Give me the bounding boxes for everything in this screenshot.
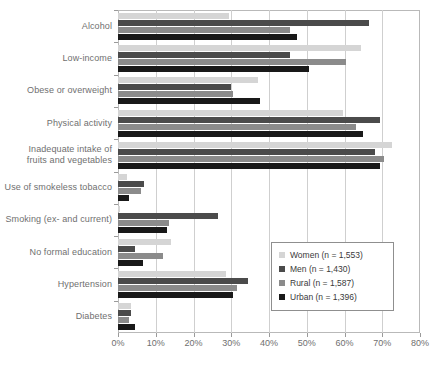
bar-group — [118, 107, 420, 139]
bar — [118, 260, 143, 266]
x-axis-labels: 0%10%20%30%40%50%60%70%80% — [0, 337, 442, 353]
bar-gap — [118, 180, 420, 181]
legend-swatch-icon — [279, 294, 285, 300]
x-axis-label: 10% — [139, 337, 173, 349]
x-axis-label: 40% — [252, 337, 286, 349]
y-axis-tick — [114, 268, 118, 269]
y-axis-tick — [114, 139, 118, 140]
y-axis-label: Physical activity — [0, 118, 112, 129]
y-axis-tick — [114, 301, 118, 302]
y-axis-label: Alcohol — [0, 21, 112, 32]
y-axis-label: Obese or overweight — [0, 85, 112, 96]
bar-gap — [118, 187, 420, 188]
legend-label: Men (n = 1,430) — [290, 264, 350, 274]
bar — [118, 292, 233, 298]
bar — [118, 163, 380, 169]
y-axis-tick — [114, 172, 118, 173]
legend-swatch-icon — [279, 252, 285, 258]
legend-label: Rural (n = 1,587) — [290, 278, 354, 288]
bar-group — [118, 42, 420, 74]
bar — [118, 131, 363, 137]
bar-group — [118, 204, 420, 236]
y-axis-tick — [114, 204, 118, 205]
legend-item: Urban (n = 1,396) — [279, 290, 386, 304]
y-axis-label: Inadequate intake offruits and vegetable… — [0, 144, 112, 166]
bar-gap — [118, 316, 420, 317]
legend-label: Urban (n = 1,396) — [290, 292, 357, 302]
x-axis-label: 50% — [290, 337, 324, 349]
y-axis-label: Use of smokeless tobacco — [0, 182, 112, 193]
bar — [118, 66, 309, 72]
x-axis-label: 0% — [101, 337, 135, 349]
bar-group — [118, 10, 420, 42]
x-axis-label: 20% — [177, 337, 211, 349]
bar — [118, 324, 135, 330]
y-axis-labels: AlcoholLow-incomeObese or overweightPhys… — [0, 10, 112, 333]
y-axis-tick — [114, 236, 118, 237]
legend-item: Men (n = 1,430) — [279, 262, 386, 276]
bar-gap — [118, 323, 420, 324]
legend-item: Women (n = 1,553) — [279, 248, 386, 262]
legend-item: Rural (n = 1,587) — [279, 276, 386, 290]
bar-chart: AlcoholLow-incomeObese or overweightPhys… — [0, 0, 442, 369]
x-axis-label: 30% — [214, 337, 248, 349]
bar — [118, 227, 167, 233]
y-axis-tick — [114, 10, 118, 11]
x-axis-label: 60% — [328, 337, 362, 349]
y-axis-label: Low-income — [0, 53, 112, 64]
bar-gap — [118, 194, 420, 195]
bar-group — [118, 172, 420, 204]
y-axis-tick — [114, 107, 118, 108]
legend: Women (n = 1,553)Men (n = 1,430)Rural (n… — [271, 242, 394, 311]
bar — [118, 34, 297, 40]
bar-group — [118, 139, 420, 171]
legend-swatch-icon — [279, 266, 285, 272]
y-axis-tick — [114, 42, 118, 43]
bar-group — [118, 75, 420, 107]
x-axis-label: 70% — [365, 337, 399, 349]
legend-swatch-icon — [279, 280, 285, 286]
y-axis-label: Smoking (ex- and current) — [0, 214, 112, 225]
y-axis-tick — [114, 75, 118, 76]
y-axis-label: Diabetes — [0, 311, 112, 322]
x-axis-label: 80% — [403, 337, 437, 349]
bar — [118, 195, 129, 201]
legend-label: Women (n = 1,553) — [290, 250, 363, 260]
bar — [118, 98, 260, 104]
y-axis-label: No formal education — [0, 247, 112, 258]
y-axis-label: Hypertension — [0, 279, 112, 290]
